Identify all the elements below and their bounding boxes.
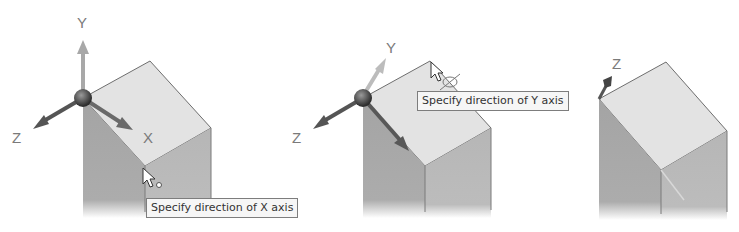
origin-ball: [74, 89, 92, 107]
panel-step-3: Z: [560, 0, 739, 232]
arrow-cursor-icon: [140, 166, 170, 196]
z-axis-label: Z: [292, 130, 301, 145]
z-axis-label: Z: [612, 56, 621, 71]
tooltip-x-axis: Specify direction of X axis: [146, 198, 298, 218]
panel-step-1: Y Z X Specify direction of X axis: [0, 0, 300, 232]
panel-step-2: Y Z Specify direction of Y axis: [280, 0, 570, 232]
origin-ball: [354, 89, 372, 107]
block-model-view-3: [560, 0, 739, 232]
z-axis-label: Z: [12, 130, 21, 145]
x-axis-label: X: [143, 130, 153, 145]
y-axis-label: Y: [77, 15, 87, 30]
tooltip-y-axis: Specify direction of Y axis: [417, 91, 569, 111]
y-axis-label: Y: [386, 40, 396, 55]
block-model-view-2: [280, 0, 570, 232]
y-axis-arrow: [77, 40, 89, 96]
